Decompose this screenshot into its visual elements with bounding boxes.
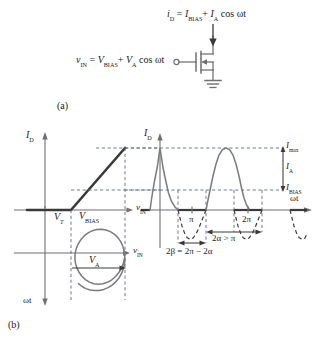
conduction-pulse-1 <box>150 148 178 210</box>
imax-subscript: max <box>289 147 299 153</box>
ibias-label: IBIAS <box>286 183 302 192</box>
two-beta-arrow-left-icon <box>178 241 185 246</box>
id-axis-right-subscript: D <box>147 134 151 141</box>
va-subscript: A <box>95 261 99 268</box>
vt-label: VT <box>54 212 64 222</box>
id-axis-left-subscript: D <box>29 136 33 143</box>
ia-label: IA <box>286 162 293 171</box>
va-label: VA <box>89 255 100 265</box>
imax-label: Imax <box>286 141 299 150</box>
figure-root: vIN = VBIAS+ VA cos ωt iD = IBIAS+ IA co… <box>0 0 317 341</box>
panel-b-label: (b) <box>8 320 20 330</box>
id-axis-arrow-right-icon <box>157 133 162 141</box>
vin-lower-subscript: IN <box>137 252 143 258</box>
id-axis-arrow-left-icon <box>42 132 47 208</box>
tick-label-2pi: 2π <box>242 215 251 224</box>
two-beta-annotation: 2β = 2π − 2α <box>166 247 213 256</box>
two-beta-arrow-right-icon <box>200 241 207 246</box>
id-axis-label-right: ID <box>144 128 152 138</box>
input-sinusoid-curve <box>75 229 125 290</box>
two-alpha-annotation: 2α > π <box>212 234 235 243</box>
imax-arrow-head-icon <box>281 146 286 152</box>
two-alpha-arrow-right-icon <box>256 230 263 235</box>
vin-axis-label-lower: vIN <box>133 246 143 255</box>
omega-t-label-right: ωt <box>290 194 298 203</box>
vin-upper-subscript: IN <box>140 209 146 215</box>
vt-subscript: T <box>60 218 63 225</box>
id-axis-label-left: ID <box>26 130 34 140</box>
omega-t-label-left: ωt <box>23 296 31 305</box>
vbias-subscript: BIAS <box>85 217 99 224</box>
vin-axis-label-upper: vIN <box>136 203 146 212</box>
panel-b-graphs <box>0 0 317 341</box>
transfer-characteristic-curve <box>27 148 125 210</box>
vbias-label: VBIAS <box>79 211 99 221</box>
ia-subscript: A <box>289 168 293 174</box>
omega-t-left-arrow-icon <box>42 299 47 307</box>
vin-upper-arrow-icon <box>127 207 134 212</box>
conduction-pulse-second <box>206 148 249 210</box>
tick-label-pi: π <box>189 215 194 224</box>
ibias-arrow-head-icon <box>281 186 286 192</box>
